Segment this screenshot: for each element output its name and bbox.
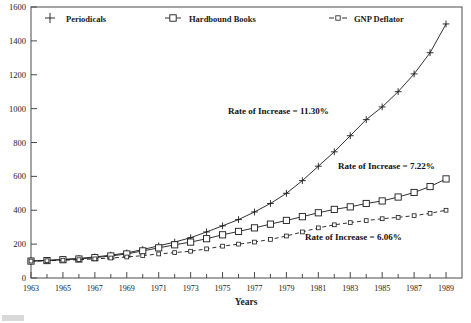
small-square-icon [336, 16, 340, 20]
small-square-icon [428, 211, 432, 215]
small-square-icon [237, 242, 241, 246]
small-square-icon [316, 226, 320, 230]
square-icon [299, 214, 305, 220]
y-tick-label: 600 [13, 171, 26, 181]
caption-fragment [2, 315, 24, 321]
x-tick-label: 1987 [406, 284, 422, 293]
square-icon [170, 15, 176, 21]
y-tick-label: 0 [22, 273, 26, 283]
square-icon [188, 239, 194, 245]
y-tick-label: 1600 [9, 2, 26, 12]
y-tick-label: 400 [13, 205, 26, 215]
x-axis-title: Years [235, 297, 258, 307]
square-icon [363, 200, 369, 206]
x-tick-label: 1971 [151, 284, 167, 293]
small-square-icon [285, 234, 289, 238]
x-tick-label: 1983 [342, 284, 358, 293]
x-tick-label: 1979 [278, 284, 294, 293]
x-tick-label: 1977 [246, 284, 262, 293]
square-icon [443, 176, 449, 182]
x-tick-label: 1985 [374, 284, 390, 293]
square-icon [315, 210, 321, 216]
small-square-icon [364, 219, 368, 223]
x-tick-label: 1989 [438, 284, 454, 293]
small-square-icon [173, 251, 177, 255]
small-square-icon [269, 237, 273, 241]
annotation-1: Rate of Increase = 11.30% [228, 106, 329, 116]
x-tick-label: 1981 [310, 284, 326, 293]
square-icon [251, 225, 257, 231]
annotation-3: Rate of Increase = 6.06% [305, 232, 402, 242]
annotation-2: Rate of Increase = 7.22% [338, 161, 435, 171]
square-icon [331, 206, 337, 212]
small-square-icon [444, 208, 448, 212]
small-square-icon [45, 259, 49, 263]
small-square-icon [253, 240, 257, 244]
y-tick-label: 800 [13, 138, 26, 148]
square-icon [395, 194, 401, 200]
x-tick-label: 1963 [23, 284, 39, 293]
small-square-icon [332, 223, 336, 227]
small-square-icon [396, 215, 400, 219]
small-square-icon [221, 244, 225, 248]
y-tick-label: 200 [13, 239, 26, 249]
square-icon [427, 183, 433, 189]
small-square-icon [380, 217, 384, 221]
small-square-icon [300, 230, 304, 234]
square-icon [283, 217, 289, 223]
square-icon [267, 221, 273, 227]
small-square-icon [93, 257, 97, 261]
x-tick-label: 1965 [55, 284, 71, 293]
square-icon [235, 228, 241, 234]
y-tick-label: 1200 [9, 70, 26, 80]
x-tick-label: 1969 [119, 284, 135, 293]
small-square-icon [61, 258, 65, 262]
square-icon [219, 232, 225, 238]
x-tick-label: 1973 [183, 284, 199, 293]
legend-label: Periodicals [66, 14, 107, 24]
figure-container: 02004006008001000120014001600 1963196519… [0, 0, 471, 323]
x-tick-label: 1967 [87, 284, 103, 293]
legend-label: GNP Deflator [354, 14, 404, 24]
small-square-icon [77, 258, 81, 262]
y-tick-label: 1000 [9, 104, 26, 114]
small-square-icon [348, 221, 352, 225]
y-tick-label: 1400 [9, 36, 26, 46]
x-tick-label: 1975 [215, 284, 231, 293]
small-square-icon [125, 255, 129, 259]
small-square-icon [157, 252, 161, 256]
small-square-icon [141, 254, 145, 258]
legend-label: Hardbound Books [189, 14, 257, 24]
square-icon [156, 245, 162, 251]
small-square-icon [205, 247, 209, 251]
square-icon [411, 189, 417, 195]
small-square-icon [189, 249, 193, 253]
square-icon [172, 242, 178, 248]
small-square-icon [412, 214, 416, 218]
small-square-icon [29, 259, 33, 263]
square-icon [203, 236, 209, 242]
small-square-icon [109, 256, 113, 260]
square-icon [379, 198, 385, 204]
square-icon [140, 248, 146, 254]
line-chart: 02004006008001000120014001600 1963196519… [0, 0, 471, 323]
square-icon [347, 204, 353, 210]
